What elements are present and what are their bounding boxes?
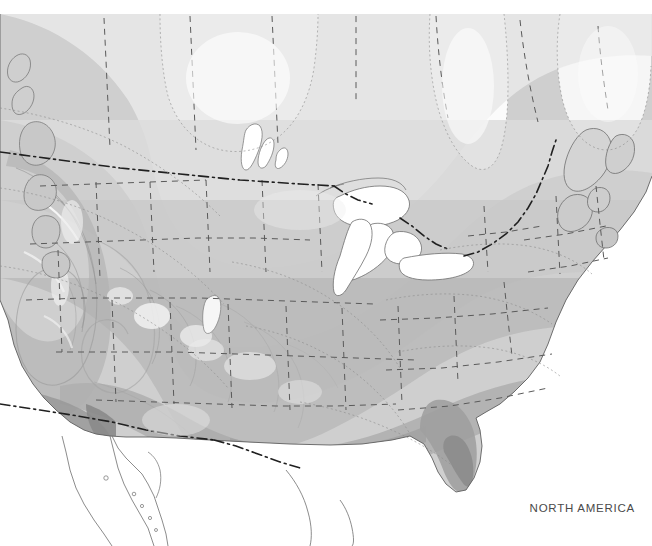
region-label: NORTH AMERICA xyxy=(530,502,635,514)
north-america-map xyxy=(0,0,652,546)
mexico-baja-outline xyxy=(62,436,354,546)
map-figure: NORTH AMERICA xyxy=(0,0,652,546)
